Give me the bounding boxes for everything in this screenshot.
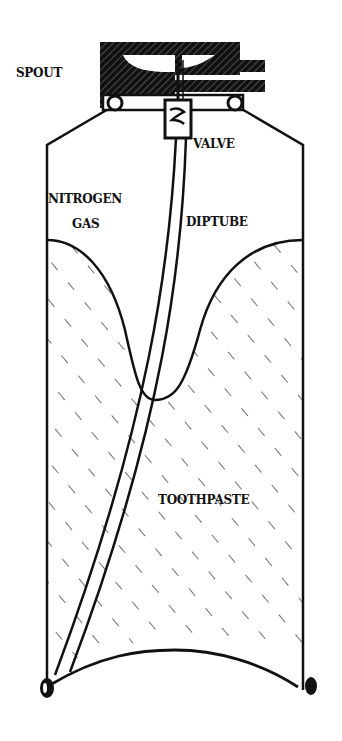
- label-valve: VALVE: [193, 138, 235, 150]
- bottom-rim-right: [305, 677, 317, 695]
- toothpaste-region: [47, 240, 303, 670]
- label-nitrogen: NITROGEN: [48, 193, 122, 205]
- bottom-piston: [50, 650, 298, 687]
- label-diptube: DIPTUBE: [186, 216, 248, 228]
- label-spout: SPOUT: [16, 67, 62, 79]
- label-toothpaste: TOOTHPASTE: [158, 494, 249, 506]
- label-gas: GAS: [72, 218, 99, 230]
- spout-assembly: [100, 42, 265, 138]
- bottom-rim-left-hl: [43, 683, 47, 693]
- dispenser-diagram: [0, 0, 342, 741]
